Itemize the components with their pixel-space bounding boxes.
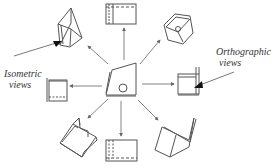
projection-views-diagram: Isometric views Orthographic views (0, 0, 273, 168)
view-bottom-orthographic (106, 140, 137, 161)
view-top-orthographic (106, 4, 136, 24)
view-right-orthographic (178, 67, 199, 95)
view-top-right-isometric (164, 14, 193, 44)
view-bottom-left-isometric (60, 118, 97, 157)
isometric-label-pointer (14, 41, 62, 56)
arrow-up-right (140, 40, 160, 64)
isometric-views-label: Isometric views (4, 68, 42, 90)
view-bottom-right-isometric (155, 118, 196, 157)
arrow-down-right (138, 100, 158, 120)
orthographic-label-line1: Orthographic (216, 46, 271, 57)
orthographic-label-line2: views (216, 57, 271, 68)
arrow-up-left (88, 46, 108, 64)
orthographic-label-pointer (194, 72, 234, 88)
arrow-down-left (88, 99, 108, 118)
orthographic-views-label: Orthographic views (216, 46, 271, 68)
view-left-orthographic (47, 78, 67, 102)
isometric-label-line1: Isometric (4, 68, 42, 79)
projection-arrows (70, 28, 174, 136)
center-object (106, 63, 136, 96)
isometric-label-line2: views (4, 79, 42, 90)
